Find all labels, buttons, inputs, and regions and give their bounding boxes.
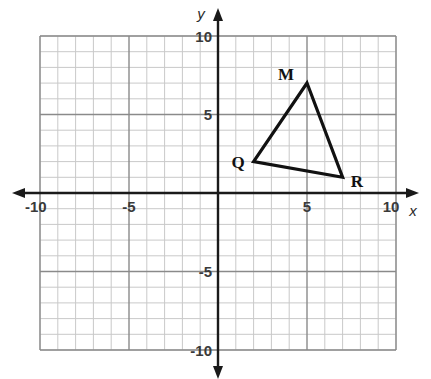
vertex-label-m: M (278, 65, 294, 84)
vertex-label-q: Q (231, 153, 244, 172)
x-axis-name-label: x (408, 202, 417, 219)
x-axis-arrow-right (406, 188, 419, 198)
axis-lines (12, 8, 419, 379)
y-axis-arrow-up (213, 8, 223, 21)
y-tick-label-pos-ten: 10 (195, 28, 212, 45)
y-tick-label-neg-ten: -10 (190, 342, 212, 359)
x-axis-arrow-left (12, 188, 25, 198)
x-tick-label-neg-five: -5 (122, 198, 135, 215)
y-axis-name-label: y (196, 5, 206, 22)
y-axis-arrow-down (213, 366, 223, 379)
x-tick-label-pos-ten: 10 (383, 198, 400, 215)
x-tick-label-pos-five: 5 (303, 198, 311, 215)
y-tick-label-neg-five: -5 (199, 263, 212, 280)
coordinate-plane-figure: -10 -5 5 10 10 5 -5 -10 x y M Q R (0, 0, 431, 379)
plot-canvas: -10 -5 5 10 10 5 -5 -10 x y M Q R (0, 0, 431, 379)
x-tick-label-neg-ten: -10 (25, 198, 47, 215)
vertex-label-r: R (351, 172, 364, 191)
y-tick-label-pos-five: 5 (204, 106, 212, 123)
